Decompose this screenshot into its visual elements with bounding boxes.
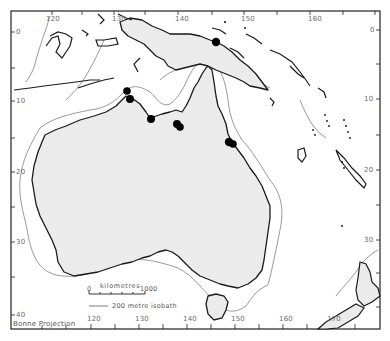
projection-label: Bonne Projection [13,321,75,328]
tasmania-landmass [206,294,228,320]
lon-label-top-130: 130 [112,16,126,23]
site-marker-queensland-2 [229,140,237,148]
lon-label-top-140: 140 [175,16,189,23]
lat-label-left-0: 0 [16,29,21,36]
lat-label-left-10: 10 [16,98,25,105]
lat-label-right-20: 20 [364,167,373,174]
lon-label-bottom-140: 140 [183,316,197,323]
lon-label-top-120: 120 [46,16,60,23]
site-marker-kimberley-2 [126,95,134,103]
lon-label-top-160: 160 [308,16,322,23]
lat-label-left-40: 40 [16,312,25,319]
lat-label-right-0: 0 [370,27,375,34]
lat-label-right-10: 10 [364,96,373,103]
lat-label-left-20: 20 [16,169,25,176]
lon-label-bottom-120: 120 [87,316,101,323]
australia-landmass [32,66,270,288]
site-marker-gulf-2 [176,123,184,131]
lon-label-bottom-130: 130 [135,316,149,323]
lon-label-bottom-170: 170 [327,316,341,323]
bottom-ticks [42,324,355,329]
scale-end: 1000 [140,286,157,293]
lat-label-right-30: 30 [364,237,373,244]
isobath-legend-label: 200 metre isobath [112,303,177,310]
lat-label-left-30: 30 [16,239,25,246]
site-marker-new-guinea-north [212,38,220,46]
lon-label-top-150: 150 [241,16,255,23]
lon-label-bottom-150: 150 [231,316,245,323]
new-zealand-north-island [356,262,380,306]
site-marker-arnhem-west [147,115,155,123]
scale-title: kilometres [100,283,140,290]
map-canvas [0,0,390,341]
scale-bar [89,291,145,294]
lon-label-bottom-160: 160 [279,316,293,323]
new-guinea-landmass [120,18,268,90]
new-zealand-south-island [318,304,364,329]
site-marker-kimberley-1 [123,87,131,95]
scale-start: 0 [87,286,91,293]
